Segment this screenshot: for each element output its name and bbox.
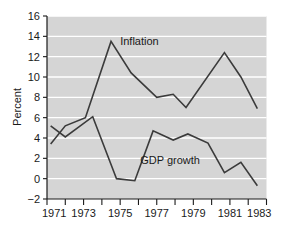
y-tick-label: −2	[27, 193, 40, 205]
x-tick-label: 1983	[247, 207, 271, 219]
y-tick-label: 6	[34, 112, 40, 124]
x-tick-label: 1977	[145, 207, 169, 219]
y-tick-label: 0	[34, 173, 40, 185]
x-axis-tick-labels: 1971197319751977197919811983	[42, 207, 272, 219]
chart-container: 1614121086420−2 197119731975197719791981…	[0, 0, 287, 239]
y-tick-label: 12	[28, 51, 40, 63]
series-label-gdp-growth: GDP growth	[140, 154, 200, 166]
y-tick-label: 8	[34, 91, 40, 103]
percent-line-chart: 1614121086420−2 197119731975197719791981…	[0, 0, 287, 239]
x-tick-label: 1975	[108, 207, 132, 219]
y-axis-title-text: Percent	[11, 88, 23, 126]
y-tick-label: 10	[28, 71, 40, 83]
y-tick-label: 4	[34, 132, 40, 144]
x-tick-label: 1981	[218, 207, 242, 219]
y-tick-label: 14	[28, 30, 40, 42]
x-tick-label: 1971	[42, 207, 66, 219]
y-tick-label: 16	[28, 10, 40, 22]
series-label-inflation: Inflation	[120, 35, 159, 47]
y-tick-label: 2	[34, 152, 40, 164]
x-tick-label: 1973	[71, 207, 95, 219]
x-tick-label: 1979	[181, 207, 205, 219]
y-axis-title: Percent	[11, 88, 23, 126]
